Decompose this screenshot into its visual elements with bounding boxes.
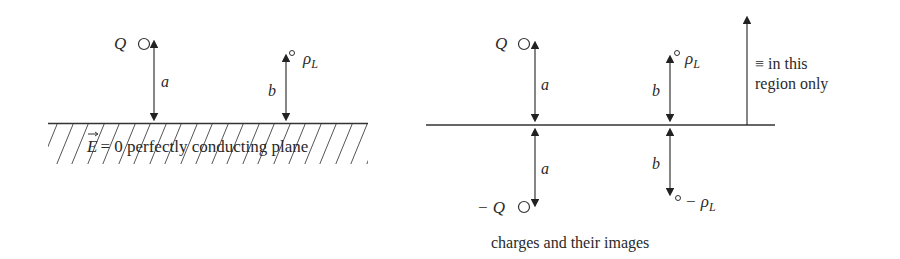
- distance-a-upper-label: a: [541, 76, 549, 93]
- charge-q-label: Q: [495, 34, 507, 53]
- figure-caption: charges and their images: [491, 234, 649, 252]
- plane-label: = 0 perfectly conducting plane: [100, 137, 308, 156]
- image-rho-subscript: L: [708, 200, 716, 214]
- rho-subscript: L: [310, 57, 318, 71]
- distance-b-lower-label: b: [652, 155, 660, 172]
- distance-b-label: b: [268, 82, 276, 99]
- left-figure: E= 0 perfectly conducting plane Q a ρL b: [40, 34, 384, 166]
- svg-text:ρL: ρL: [302, 49, 318, 71]
- charge-q-label: Q: [114, 34, 126, 53]
- image-rho-label: − ρ: [685, 192, 709, 211]
- svg-text:E= 0 perfectly conducting plan: E= 0 perfectly conducting plane: [86, 137, 308, 156]
- svg-text:− ρL: − ρL: [685, 192, 716, 214]
- image-point-charge-icon: [519, 202, 530, 213]
- distance-a-lower-label: a: [541, 160, 549, 177]
- svg-text:ρL: ρL: [684, 49, 700, 71]
- image-charge-label: − Q: [477, 198, 505, 217]
- right-figure: Q a a − Q ρL b b − ρL ≡ in this region o…: [426, 20, 828, 252]
- line-charge-icon: [290, 51, 295, 56]
- rho-subscript: L: [692, 57, 700, 71]
- distance-a-label: a: [161, 73, 169, 90]
- point-charge-icon: [139, 39, 150, 50]
- image-line-charge-icon: [676, 196, 681, 201]
- rho-label: ρ: [684, 49, 693, 68]
- point-charge-icon: [519, 39, 530, 50]
- vector-arrow-icon: [88, 132, 98, 136]
- rho-label: ρ: [302, 49, 311, 68]
- distance-b-upper-label: b: [652, 82, 660, 99]
- image-method-diagram: E= 0 perfectly conducting plane Q a ρL b…: [0, 0, 900, 259]
- equivalence-note-line2: region only: [755, 75, 828, 93]
- line-charge-icon: [675, 51, 680, 56]
- equivalence-note-line1: ≡ in this: [755, 55, 808, 72]
- field-symbol: E: [86, 137, 98, 156]
